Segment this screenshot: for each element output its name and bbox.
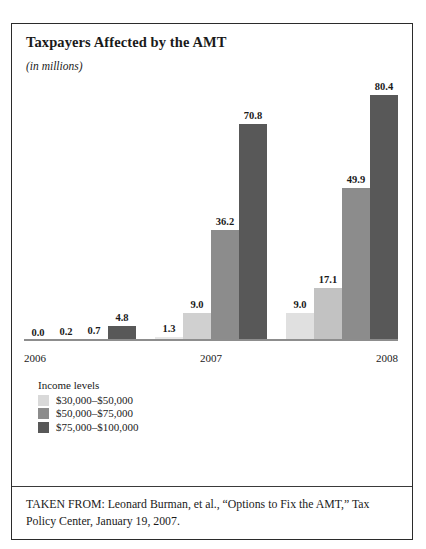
bar-item: 70.8 xyxy=(239,72,267,341)
bar-item: 1.3 xyxy=(155,72,183,341)
chart-subtitle: (in millions) xyxy=(26,60,398,72)
bar-rect xyxy=(183,313,211,341)
legend-item: $30,000–$50,000 xyxy=(38,395,412,406)
figure-header: Taxpayers Affected by the AMT (in millio… xyxy=(12,24,412,72)
legend-swatch-icon xyxy=(38,408,49,419)
legend-swatch-icon xyxy=(38,395,49,406)
legend-item: $75,000–$100,000 xyxy=(38,422,412,433)
bar-rect xyxy=(239,124,267,340)
bar-item: 4.8 xyxy=(108,72,136,341)
bar-value-label: 9.0 xyxy=(293,300,306,311)
bar-value-label: 49.9 xyxy=(347,175,365,186)
source-attribution: TAKEN FROM: Leonard Burman, et al., “Opt… xyxy=(12,487,412,539)
bar-group-2006: 0.0 0.2 0.7 4.8 xyxy=(24,72,136,341)
bar-item: 49.9 xyxy=(342,72,370,341)
figure-panel: Taxpayers Affected by the AMT (in millio… xyxy=(11,23,413,540)
bar-item: 17.1 xyxy=(314,72,342,341)
x-axis-line xyxy=(24,339,398,340)
bar-item: 0.0 xyxy=(24,72,52,341)
legend-item-label: $75,000–$100,000 xyxy=(56,422,139,433)
x-tick-label: 2007 xyxy=(200,352,222,364)
bar-value-label: 0.7 xyxy=(87,326,100,337)
bar-item: 0.2 xyxy=(52,72,80,341)
bar-value-label: 80.4 xyxy=(375,82,393,93)
legend-item-label: $30,000–$50,000 xyxy=(56,395,133,406)
bar-group-2008: 9.0 17.1 49.9 80.4 xyxy=(286,72,398,341)
x-tick-label: 2006 xyxy=(24,352,46,364)
bar-item: 0.7 xyxy=(80,72,108,341)
bar-groups: 0.0 0.2 0.7 4.8 1.3 xyxy=(24,72,398,341)
bar-rect xyxy=(108,326,136,341)
bar-value-label: 0.2 xyxy=(59,327,72,338)
bar-rect xyxy=(286,313,314,341)
legend-item: $50,000–$75,000 xyxy=(38,408,412,419)
bar-rect xyxy=(370,95,398,341)
bar-value-label: 17.1 xyxy=(319,275,337,286)
bar-rect xyxy=(211,230,239,341)
legend-swatch-icon xyxy=(38,422,49,433)
bar-rect xyxy=(314,288,342,340)
bar-item: 36.2 xyxy=(211,72,239,341)
legend-title: Income levels xyxy=(38,379,412,391)
bar-group-2007: 1.3 9.0 36.2 70.8 xyxy=(155,72,267,341)
bar-value-label: 70.8 xyxy=(244,111,262,122)
bar-value-label: 1.3 xyxy=(162,324,175,335)
legend-item-label: $50,000–$75,000 xyxy=(56,408,133,419)
chart-title: Taxpayers Affected by the AMT xyxy=(26,34,398,51)
plot-area: 0.0 0.2 0.7 4.8 1.3 xyxy=(20,72,404,367)
bar-rect xyxy=(342,188,370,341)
bar-value-label: 0.0 xyxy=(31,328,44,339)
bar-value-label: 4.8 xyxy=(115,313,128,324)
legend: Income levels $30,000–$50,000 $50,000–$7… xyxy=(38,379,412,433)
bar-item: 80.4 xyxy=(370,72,398,341)
bar-value-label: 9.0 xyxy=(190,300,203,311)
bar-value-label: 36.2 xyxy=(216,217,234,228)
x-axis-tick-labels: 2006 2007 2008 xyxy=(24,352,398,364)
bar-item: 9.0 xyxy=(286,72,314,341)
x-tick-label: 2008 xyxy=(376,352,398,364)
bar-item: 9.0 xyxy=(183,72,211,341)
